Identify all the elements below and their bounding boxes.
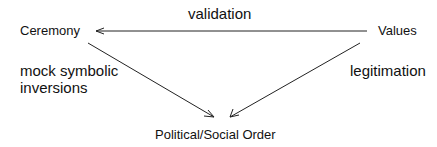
edge-label-validation: validation [188, 6, 251, 21]
node-ceremony: Ceremony [20, 24, 80, 37]
edge-label-inversions: inversions [20, 80, 88, 95]
arrow-ceremony-to-order [88, 43, 214, 117]
node-values: Values [378, 24, 417, 37]
node-political-social-order: Political/Social Order [155, 128, 276, 141]
arrow-values-to-order [230, 43, 360, 117]
edge-label-legitimation: legitimation [350, 63, 426, 78]
edge-label-mock-symbolic: mock symbolic [20, 63, 118, 78]
